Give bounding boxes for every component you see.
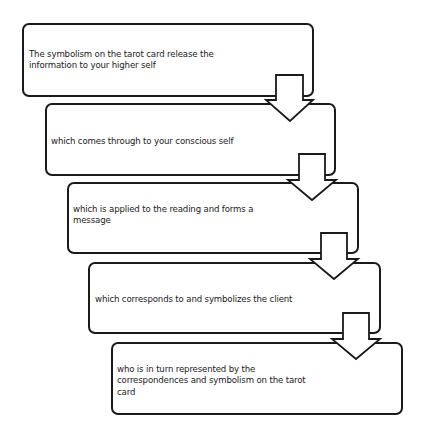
step-text-5: who is in turn represented by the corres… bbox=[117, 364, 337, 398]
step-text-3: which is applied to the reading and form… bbox=[73, 204, 283, 227]
step-text-2: which comes through to your conscious se… bbox=[51, 136, 281, 147]
flowchart-diagram: The symbolism on the tarot card release … bbox=[0, 0, 425, 444]
step-text-4: which corresponds to and symbolizes the … bbox=[95, 294, 335, 305]
step-text-1: The symbolism on the tarot card release … bbox=[29, 49, 239, 72]
